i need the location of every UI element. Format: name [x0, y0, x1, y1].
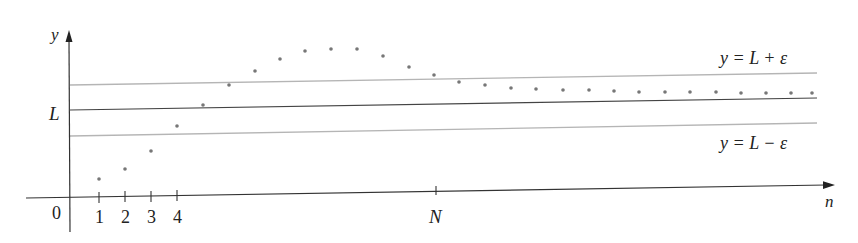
sequence-point	[457, 80, 461, 84]
sequence-point	[227, 83, 231, 87]
x-axis	[26, 185, 826, 198]
sequence-point	[123, 167, 127, 171]
sequence-point	[561, 88, 565, 92]
sequence-point	[253, 69, 257, 73]
sequence-point	[789, 91, 793, 95]
sequence-point	[149, 149, 153, 153]
sequence-point	[355, 47, 359, 51]
sequence-point	[432, 73, 436, 77]
limit-label: L	[48, 103, 60, 124]
origin-label: 0	[52, 203, 61, 223]
tick-label-3: 3	[147, 207, 156, 227]
lower-band-line	[70, 123, 817, 136]
sequence-point	[97, 177, 101, 181]
sequence-point	[534, 87, 538, 91]
sequence-point	[764, 91, 768, 95]
y-axis-label: y	[49, 25, 59, 44]
x-axis-arrow-icon	[823, 181, 835, 189]
sequence-point	[381, 54, 385, 58]
upper-band-label: y = L + ε	[718, 48, 788, 68]
limit-line	[70, 98, 817, 110]
sequence-point	[483, 83, 487, 87]
sequence-point	[714, 90, 718, 94]
sequence-point	[175, 124, 179, 128]
sequence-limit-diagram: y L 0 1 2 3 4 N n y = L + ε y = L − ε	[0, 0, 858, 243]
sequence-points	[97, 47, 814, 181]
tick-label-4: 4	[173, 207, 182, 227]
sequence-point	[637, 90, 641, 94]
sequence-point	[278, 57, 282, 61]
y-axis-arrow-icon	[66, 30, 73, 42]
tick-label-2: 2	[121, 207, 130, 227]
sequence-point	[739, 91, 743, 95]
sequence-point	[688, 90, 692, 94]
sequence-point	[663, 90, 667, 94]
sequence-point	[303, 49, 307, 53]
tick-label-1: 1	[95, 207, 104, 227]
sequence-point	[810, 91, 814, 95]
sequence-point	[329, 47, 333, 51]
sequence-point	[612, 89, 616, 93]
x-axis-label: n	[825, 192, 834, 211]
N-label: N	[428, 206, 443, 227]
sequence-point	[509, 86, 513, 90]
lower-band-label: y = L − ε	[718, 133, 788, 153]
sequence-point	[201, 103, 205, 107]
sequence-point	[587, 88, 591, 92]
y-axis	[69, 40, 70, 232]
sequence-point	[407, 65, 411, 69]
upper-band-line	[70, 73, 817, 85]
